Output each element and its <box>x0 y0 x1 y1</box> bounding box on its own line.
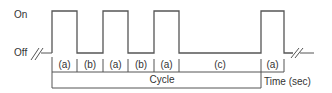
time-axis-label: Time (sec) <box>264 76 311 87</box>
off-label: Off <box>14 47 27 58</box>
cycle-label: Cycle <box>149 74 174 85</box>
waveform <box>52 11 293 53</box>
timing-diagram: On Off (a) (b) (a) (b) (a) (c) (a) Cycle… <box>0 0 332 93</box>
segment-label: (a) <box>266 59 278 70</box>
right-break-icon <box>291 48 314 58</box>
segment-label: (b) <box>84 59 96 70</box>
segment-label: (b) <box>135 59 147 70</box>
left-break-icon <box>31 48 52 60</box>
segment-label: (a) <box>109 59 121 70</box>
segment-label: (a) <box>160 59 172 70</box>
segment-label: (a) <box>58 59 70 70</box>
segment-label: (c) <box>214 59 226 70</box>
on-label: On <box>14 9 27 20</box>
